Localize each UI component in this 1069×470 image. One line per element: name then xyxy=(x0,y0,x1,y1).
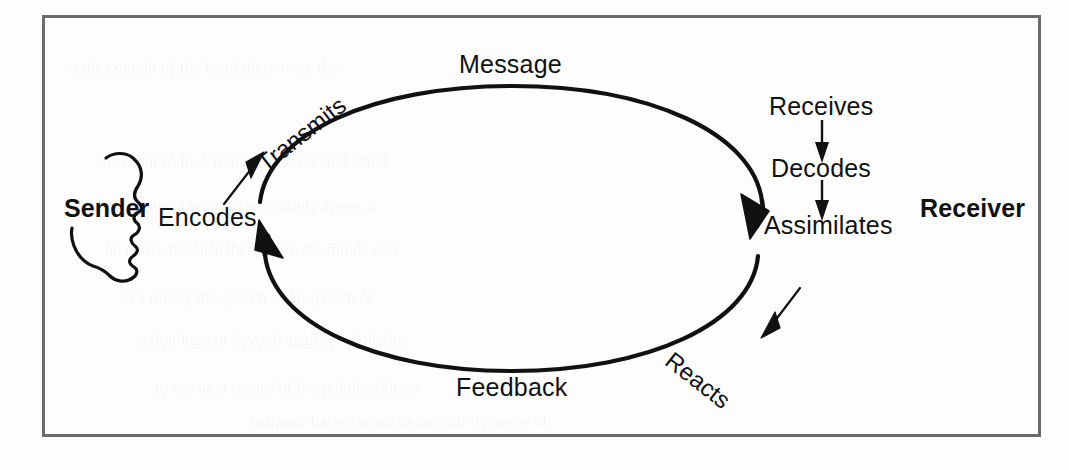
assimilates-label: Assimilates xyxy=(764,213,893,238)
receives-label: Receives xyxy=(769,94,873,119)
encodes-label: Encodes xyxy=(158,205,257,230)
sender-label: Sender xyxy=(64,196,149,221)
feedback-arrowhead xyxy=(255,220,283,258)
figure-container: a the contain of the hand there were the… xyxy=(0,0,1069,470)
feedback-label: Feedback xyxy=(456,375,567,400)
message-label: Message xyxy=(459,52,562,77)
receiver-label: Receiver xyxy=(920,196,1025,221)
decodes-label: Decodes xyxy=(771,156,871,181)
reacts-direction-arrow xyxy=(761,288,800,338)
